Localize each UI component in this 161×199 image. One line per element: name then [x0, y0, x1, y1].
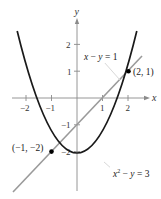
point-label-neg1-neg2: (−1, −2) — [12, 143, 43, 154]
intersection-point-2-1 — [126, 69, 131, 74]
x-tick-label: −2 — [20, 103, 30, 113]
system-of-equations-graph: x y −2 −1 1 2 2 1 −1 −2 x − y = 1 x2 − y… — [0, 0, 161, 199]
y-axis-arrow-icon — [75, 18, 79, 24]
x-axis-arrow-icon — [144, 96, 150, 100]
x-axis-label: x — [151, 92, 157, 103]
label-leader-line — [104, 62, 120, 80]
x-tick-label: 2 — [126, 103, 131, 113]
intersection-point-neg1-neg2 — [49, 149, 54, 154]
y-axis-label: y — [74, 6, 80, 17]
x-tick-label: −1 — [46, 103, 56, 113]
x-tick-label: 1 — [100, 103, 105, 113]
x-axis — [12, 95, 150, 101]
point-label-2-1: (2, 1) — [133, 67, 154, 78]
y-tick-label: 1 — [67, 67, 72, 77]
y-tick-label: −1 — [61, 120, 71, 130]
y-tick-label: 2 — [66, 40, 71, 50]
line-equation-label: x − y = 1 — [83, 52, 118, 62]
y-axis — [74, 18, 80, 191]
